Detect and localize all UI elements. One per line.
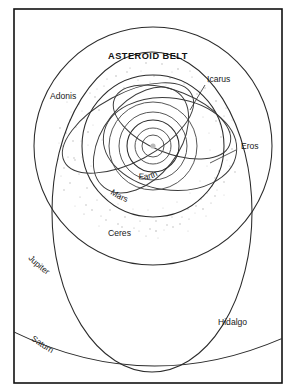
- label-eros: Eros: [241, 141, 259, 151]
- sun-marker: [150, 143, 155, 148]
- label-adonis: Adonis: [50, 91, 76, 101]
- label-asteroid-belt: ASTEROID BELT: [108, 51, 188, 61]
- label-icarus: Icarus: [207, 74, 230, 84]
- label-ceres: Ceres: [108, 228, 131, 238]
- asteroid-belt-diagram: ASTEROID BELT Adonis Icarus Eros Earth M…: [0, 0, 295, 391]
- solar-system-svg: ASTEROID BELT Adonis Icarus Eros Earth M…: [0, 0, 295, 391]
- label-hidalgo: Hidalgo: [218, 317, 247, 327]
